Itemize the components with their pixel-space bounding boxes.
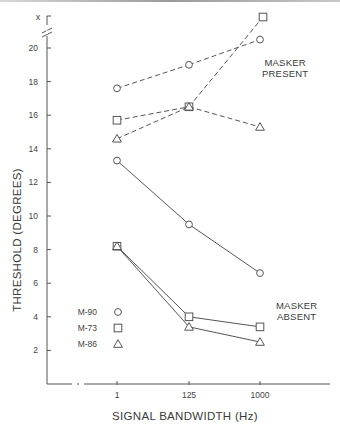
series-line-m-73-absent bbox=[117, 246, 189, 317]
series-line-m-90-absent bbox=[189, 224, 260, 273]
annotation-line: ABSENT bbox=[276, 311, 317, 322]
circle-marker bbox=[186, 61, 193, 68]
y-tick-label: 8 bbox=[33, 245, 38, 255]
y-tick-label-x: x bbox=[36, 12, 41, 22]
series-line-m-90-present bbox=[117, 65, 189, 89]
circle-marker bbox=[257, 36, 264, 43]
series-line-m-73-absent bbox=[189, 317, 260, 327]
y-axis-label: THRESHOLD (DEGREES) bbox=[11, 168, 23, 312]
axis-break-gap bbox=[46, 31, 48, 35]
y-tick-label: 18 bbox=[29, 77, 39, 87]
circle-marker bbox=[114, 85, 121, 92]
y-tick-label: 10 bbox=[29, 211, 39, 221]
circle-marker bbox=[114, 157, 121, 164]
triangle-marker bbox=[256, 123, 265, 131]
legend-triangle-icon bbox=[114, 340, 123, 348]
y-tick-label: 20 bbox=[29, 43, 39, 53]
series-line-m-90-absent bbox=[117, 161, 189, 225]
annotation-line: MASKER bbox=[262, 57, 308, 68]
annotation-line: PRESENT bbox=[262, 68, 308, 79]
legend-label: M-90 bbox=[78, 307, 98, 317]
x-tick-label: 125 bbox=[182, 390, 196, 400]
series-line-m-86-absent bbox=[189, 327, 260, 342]
y-tick-label: 16 bbox=[29, 110, 39, 120]
square-marker bbox=[185, 313, 193, 321]
square-marker bbox=[113, 116, 121, 124]
y-tick-label: 14 bbox=[29, 144, 39, 154]
legend-circle-icon bbox=[115, 309, 122, 316]
annotation-line: MASKER bbox=[276, 300, 317, 311]
series-line-m-86-present bbox=[189, 107, 260, 127]
square-marker bbox=[259, 13, 267, 21]
series-line-m-90-present bbox=[189, 40, 260, 65]
y-tick-label: 12 bbox=[29, 177, 39, 187]
legend-square-icon bbox=[114, 324, 122, 332]
annotation-masker-present: MASKER PRESENT bbox=[262, 57, 308, 79]
series-line-m-73-present bbox=[189, 17, 263, 107]
y-axis-top-segment bbox=[47, 16, 51, 25]
legend-label: M-86 bbox=[78, 339, 98, 349]
y-tick-label: 4 bbox=[33, 312, 38, 322]
circle-marker bbox=[257, 270, 264, 277]
series-line-m-86-absent bbox=[117, 246, 189, 327]
circle-marker bbox=[186, 221, 193, 228]
annotation-masker-absent: MASKER ABSENT bbox=[276, 300, 317, 322]
legend-label: M-73 bbox=[78, 323, 98, 333]
x-axis-label: SIGNAL BANDWIDTH (Hz) bbox=[0, 410, 340, 422]
x-tick-label: 1 bbox=[115, 390, 120, 400]
x-tick-label: 1000 bbox=[251, 390, 270, 400]
series-line-m-86-present bbox=[117, 107, 189, 139]
y-tick-label: 2 bbox=[33, 345, 38, 355]
y-tick-label: 6 bbox=[33, 278, 38, 288]
triangle-marker bbox=[113, 134, 122, 142]
square-marker bbox=[256, 323, 264, 331]
series-line-m-73-present bbox=[117, 107, 189, 120]
